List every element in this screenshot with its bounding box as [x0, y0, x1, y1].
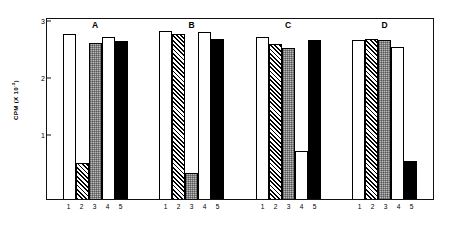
bar-b-3 — [185, 173, 198, 199]
x-axis-tick-row: 12345 — [337, 203, 434, 217]
bar-c-2 — [269, 44, 282, 199]
bar-b-1 — [159, 31, 172, 199]
x-axis-tick-label: 5 — [405, 203, 418, 217]
panel-container: ABCD — [47, 19, 433, 199]
panel-b: B — [144, 19, 241, 199]
y-axis-title-close: ) — [12, 80, 19, 82]
x-axis-tick-label: 3 — [379, 203, 392, 217]
x-axis-tick-label: 1 — [353, 203, 366, 217]
bar-group — [337, 19, 434, 199]
y-axis-title-text: CPM (X 10 — [12, 87, 19, 120]
x-axis-tick-label: 3 — [185, 203, 198, 217]
x-axis-tick-label: 4 — [198, 203, 211, 217]
bar-d-5 — [404, 161, 417, 199]
bar-c-1 — [256, 37, 269, 199]
bar-a-2 — [76, 163, 89, 199]
y-axis-title-exponent: -3 — [11, 82, 16, 87]
bar-group — [240, 19, 337, 199]
bar-group — [144, 19, 241, 199]
x-axis-tick-label: 2 — [366, 203, 379, 217]
x-axis-tick-row: 12345 — [46, 203, 143, 217]
bar-group — [47, 19, 144, 199]
x-axis-tick-label: 2 — [269, 203, 282, 217]
y-axis-title-container: CPM (X 10-3) — [4, 0, 26, 200]
panel-a: A — [47, 19, 144, 199]
bar-d-4 — [391, 47, 404, 199]
x-axis-tick-row: 12345 — [143, 203, 240, 217]
x-axis-tick-label: 5 — [211, 203, 224, 217]
bar-a-4 — [102, 37, 115, 199]
panel-c: C — [240, 19, 337, 199]
bar-c-3 — [282, 48, 295, 199]
x-axis-tick-label: 4 — [392, 203, 405, 217]
x-axis-tick-label: 4 — [101, 203, 114, 217]
plot-area: 123 ABCD — [46, 18, 434, 200]
x-axis-tick-label: 1 — [159, 203, 172, 217]
bar-d-1 — [352, 40, 365, 199]
bar-b-4 — [198, 32, 211, 199]
x-axis-tick-row: 12345 — [240, 203, 337, 217]
panel-d: D — [337, 19, 434, 199]
bar-c-4 — [295, 151, 308, 199]
bar-d-2 — [365, 39, 378, 199]
bar-d-3 — [378, 40, 391, 199]
x-axis-tick-label: 2 — [75, 203, 88, 217]
bar-b-5 — [211, 39, 224, 199]
bar-c-5 — [308, 40, 321, 199]
x-axis-tick-label: 3 — [88, 203, 101, 217]
x-axis-tick-label: 1 — [62, 203, 75, 217]
x-axis-tick-label: 4 — [295, 203, 308, 217]
figure-root: CPM (X 10-3) 123 ABCD 123451234512345123… — [0, 0, 450, 228]
x-axis-tick-label: 1 — [256, 203, 269, 217]
bar-b-2 — [172, 34, 185, 199]
x-axis-tick-label: 5 — [114, 203, 127, 217]
bar-a-5 — [115, 41, 128, 199]
x-axis-tick-label: 2 — [172, 203, 185, 217]
bar-a-1 — [63, 34, 76, 199]
y-axis-title: CPM (X 10-3) — [11, 80, 19, 120]
x-axis-tick-label: 3 — [282, 203, 295, 217]
x-axis-tick-label: 5 — [308, 203, 321, 217]
bar-a-3 — [89, 43, 102, 199]
